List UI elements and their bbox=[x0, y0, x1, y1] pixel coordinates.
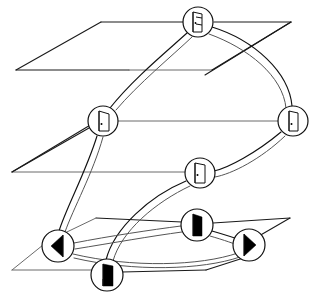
arc-bottom-left-to-bottom-center bbox=[74, 226, 182, 249]
node-bottom-center[interactable] bbox=[181, 209, 213, 241]
plane-middle-diagonal bbox=[12, 124, 96, 172]
node-mid-center[interactable] bbox=[185, 158, 215, 188]
plane-bottom-edge-back-right bbox=[213, 218, 290, 223]
plane-bottom-edge-front-right bbox=[122, 270, 206, 272]
door-half-filled-icon bbox=[193, 214, 202, 236]
arc-top-to-mid-left bbox=[110, 33, 192, 110]
node-bottom-right[interactable] bbox=[233, 229, 265, 261]
arc-mid-right-to-mid-center bbox=[214, 132, 285, 177]
layered-plane-diagram bbox=[0, 0, 313, 292]
door-filled-icon bbox=[103, 264, 113, 286]
arc-mid-center-to-bottom-lower bbox=[106, 181, 190, 261]
plane-top-edge-left bbox=[16, 22, 101, 70]
node-mid-left[interactable] bbox=[88, 106, 118, 136]
plane-bottom-diagonal bbox=[12, 245, 43, 270]
node-mid-right[interactable] bbox=[278, 106, 308, 136]
node-bottom-left[interactable] bbox=[42, 230, 74, 262]
plane-top-diagonal bbox=[205, 22, 291, 75]
diagram-canvas: Layered planes with connecting transitio… bbox=[0, 0, 313, 292]
arc-top-to-mid-right bbox=[209, 27, 292, 108]
node-top-center[interactable] bbox=[183, 7, 213, 37]
plane-middle bbox=[12, 121, 283, 172]
plane-top bbox=[16, 22, 291, 75]
node-bottom-lower[interactable] bbox=[91, 259, 123, 291]
